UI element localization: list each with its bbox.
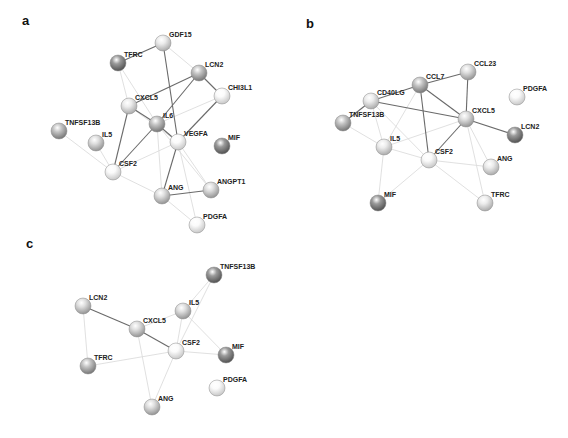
node-tfrc[interactable]: TFRC bbox=[80, 354, 113, 374]
node-label: CXCL5 bbox=[143, 317, 166, 324]
edge-cxcl5-ang bbox=[137, 329, 152, 407]
edge-ccl7-cxcl5 bbox=[420, 85, 466, 119]
node-label: ANG bbox=[497, 155, 513, 162]
node-label: TNFSF13B bbox=[65, 119, 100, 126]
node-ang[interactable]: ANG bbox=[483, 155, 513, 175]
node-label: CSF2 bbox=[182, 339, 200, 346]
node-lcn2[interactable]: LCN2 bbox=[507, 123, 539, 143]
node-label: GDF15 bbox=[169, 31, 192, 38]
panel-label-a: a bbox=[22, 13, 30, 28]
node-cxcl5[interactable]: CXCL5 bbox=[129, 317, 166, 337]
edge-csf2-ang bbox=[429, 160, 491, 167]
node-label: IL6 bbox=[163, 112, 173, 119]
node-angpt1[interactable]: ANGPT1 bbox=[203, 178, 246, 198]
node-label: IL5 bbox=[102, 131, 112, 138]
node-ccl23[interactable]: CCL23 bbox=[460, 60, 496, 80]
node-label: CXCL5 bbox=[472, 107, 495, 114]
node-vegfa[interactable]: VEGFA bbox=[170, 130, 208, 150]
edge-gdf15-vegfa bbox=[163, 43, 178, 142]
node-il5[interactable]: IL5 bbox=[376, 135, 400, 155]
node-label: TFRC bbox=[124, 51, 143, 58]
node-label: CCL7 bbox=[426, 73, 444, 80]
node-label: ANGPT1 bbox=[217, 178, 246, 185]
node-label: PDGFA bbox=[203, 213, 227, 220]
node-tnfsf13b[interactable]: TNFSF13B bbox=[206, 263, 255, 283]
edge-vegfa-angpt1 bbox=[178, 142, 211, 190]
edge-ccl7-csf2 bbox=[420, 85, 429, 160]
node-csf2[interactable]: CSF2 bbox=[421, 148, 453, 168]
node-label: ANG bbox=[158, 395, 174, 402]
node-label: TNFSF13B bbox=[349, 111, 384, 118]
node-label: TNFSF13B bbox=[220, 263, 255, 270]
node-label: MIF bbox=[228, 134, 241, 141]
node-lcn2[interactable]: LCN2 bbox=[75, 294, 107, 314]
node-label: TFRC bbox=[94, 354, 113, 361]
node-label: LCN2 bbox=[89, 294, 107, 301]
edge-cxcl5-lcn2 bbox=[129, 73, 199, 106]
node-cxcl5[interactable]: CXCL5 bbox=[458, 107, 495, 127]
edge-lcn2-tfrc bbox=[83, 306, 88, 366]
node-label: CD40LG bbox=[377, 89, 405, 96]
edges-layer bbox=[59, 43, 515, 407]
node-label: LCN2 bbox=[521, 123, 539, 130]
node-label: CCL23 bbox=[474, 60, 496, 67]
node-il6[interactable]: IL6 bbox=[149, 112, 173, 132]
node-csf2[interactable]: CSF2 bbox=[168, 339, 200, 359]
node-label: MIF bbox=[232, 343, 245, 350]
edge-lcn2-cxcl5 bbox=[83, 306, 137, 329]
node-gdf15[interactable]: GDF15 bbox=[155, 31, 192, 51]
node-mif[interactable]: MIF bbox=[218, 343, 245, 363]
node-label: ANG bbox=[168, 184, 184, 191]
panel-label-c: c bbox=[26, 236, 33, 251]
node-label: MIF bbox=[384, 191, 397, 198]
node-chi3l1[interactable]: CHI3L1 bbox=[214, 84, 252, 104]
panel-label-b: b bbox=[306, 16, 314, 31]
node-label: VEGFA bbox=[184, 130, 208, 137]
node-label: PDGFA bbox=[523, 85, 547, 92]
node-mif[interactable]: MIF bbox=[214, 134, 241, 154]
node-il5[interactable]: IL5 bbox=[175, 299, 199, 319]
edge-csf2-vegfa bbox=[113, 142, 178, 172]
edge-il6-ang bbox=[157, 124, 162, 196]
node-label: TFRC bbox=[491, 191, 510, 198]
node-label: CSF2 bbox=[435, 148, 453, 155]
node-csf2[interactable]: CSF2 bbox=[105, 160, 137, 180]
node-label: CSF2 bbox=[119, 160, 137, 167]
node-label: CHI3L1 bbox=[228, 84, 252, 91]
node-label: CXCL5 bbox=[135, 94, 158, 101]
node-mif[interactable]: MIF bbox=[370, 191, 397, 211]
edge-cd40lg-cxcl5 bbox=[371, 101, 466, 119]
node-label: IL5 bbox=[189, 299, 199, 306]
node-lcn2[interactable]: LCN2 bbox=[191, 61, 223, 81]
network-figure: GDF15TFRCLCN2CHI3L1CXCL5IL6VEGFATNFSF13B… bbox=[0, 0, 568, 438]
node-pdgfa[interactable]: PDGFA bbox=[209, 376, 247, 396]
node-label: IL5 bbox=[390, 135, 400, 142]
node-tfrc[interactable]: TFRC bbox=[477, 191, 510, 211]
node-tfrc[interactable]: TFRC bbox=[110, 51, 143, 71]
node-ang[interactable]: ANG bbox=[144, 395, 174, 415]
node-label: LCN2 bbox=[205, 61, 223, 68]
nodes-layer: GDF15TFRCLCN2CHI3L1CXCL5IL6VEGFATNFSF13B… bbox=[51, 31, 547, 415]
node-il5[interactable]: IL5 bbox=[88, 131, 112, 151]
edge-chi3l1-il6 bbox=[157, 96, 222, 124]
node-label: PDGFA bbox=[223, 376, 247, 383]
node-pdgfa[interactable]: PDGFA bbox=[509, 85, 547, 105]
edge-il5-mif bbox=[183, 311, 226, 355]
